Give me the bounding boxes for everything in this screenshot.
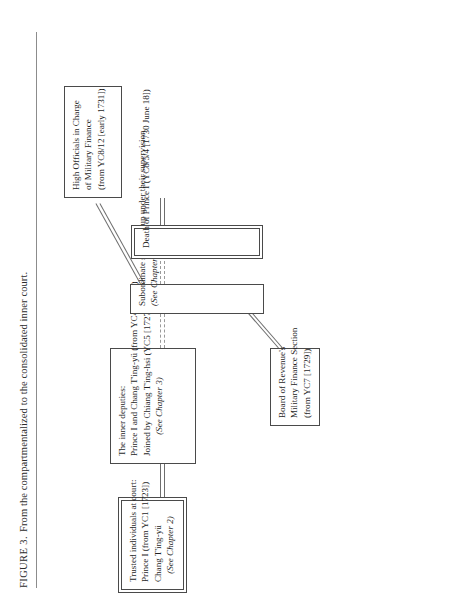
node-death-of-prince[interactable]: Death of Prince I (YC8/5/4 [1730 June 18…: [134, 228, 260, 256]
node-trusted-individuals-line-3: Chang T'ing-yü: [152, 508, 164, 582]
node-inner-deputies-line-3: Joined by Chiang T'ing-hsi (YC5 [1727]): [141, 356, 153, 456]
connector-deputies-to-staffs-lower: [164, 314, 165, 348]
node-subordinate-staffs-chapter-note: (See Chapter 4): [148, 292, 160, 306]
node-inner-deputies[interactable]: The inner deputies: Prince I and Chang T…: [110, 348, 196, 464]
node-subordinate-staffs[interactable]: Subordinate staffs set up under their su…: [130, 284, 264, 314]
connector-death-to-high-officials-upper: [160, 198, 161, 228]
caption-divider: [36, 32, 37, 588]
figure-caption-label: FIGURE 3.: [18, 536, 29, 588]
node-death-of-prince-line-1: Death of Prince I (YC8/5/4 [1730 June 18…: [140, 236, 152, 248]
figure-caption-text: From the compartmentalized to the consol…: [18, 272, 29, 532]
connector-trusted-to-deputies-lower: [164, 464, 165, 500]
node-board-of-revenue[interactable]: Board of Revenue's Military Finance Sect…: [270, 348, 320, 426]
connector-staffs-to-death-upper: [160, 256, 161, 284]
rotated-figure-canvas: FIGURE 3.From the compartmentalized to t…: [0, 0, 455, 610]
node-high-officials-line-2: of Military Finance: [82, 94, 94, 190]
figure-caption: FIGURE 3.From the compartmentalized to t…: [18, 22, 29, 588]
connector-trusted-to-deputies-upper: [160, 464, 161, 500]
connector-deputies-to-staffs-upper: [160, 314, 161, 348]
connector-death-to-high-officials-lower: [164, 198, 165, 228]
node-inner-deputies-chapter-note: (See Chapter 3): [153, 356, 165, 456]
node-trusted-individuals-line-2: Prince I (from YC1 [1723]): [139, 508, 151, 582]
node-board-of-revenue-line-3: (from YC7 [1729]): [301, 356, 313, 418]
node-inner-deputies-line-2: Prince I and Chang T'ing-yü (from YC4 [1…: [128, 356, 140, 456]
connector-staffs-to-death-lower: [164, 256, 165, 284]
node-subordinate-staffs-line-1: Subordinate staffs set up under their su…: [136, 292, 148, 306]
node-board-of-revenue-line-2: Military Finance Section: [288, 356, 300, 418]
node-high-officials[interactable]: High Officials in Charge of Military Fin…: [64, 86, 122, 198]
node-trusted-individuals-chapter-note: (See Chapter 2): [164, 508, 176, 582]
node-trusted-individuals[interactable]: Trusted individuals at court: Prince I (…: [121, 500, 184, 590]
node-inner-deputies-line-1: The inner deputies:: [116, 356, 128, 456]
figure-page: FIGURE 3.From the compartmentalized to t…: [0, 0, 455, 610]
node-high-officials-line-3: (from YC8/12 [early 1731]): [95, 94, 107, 190]
node-board-of-revenue-line-1: Board of Revenue's: [276, 356, 288, 418]
node-trusted-individuals-line-1: Trusted individuals at court:: [127, 508, 139, 582]
diagram-stage: Trusted individuals at court: Prince I (…: [44, 0, 444, 610]
node-high-officials-line-1: High Officials in Charge: [70, 94, 82, 190]
